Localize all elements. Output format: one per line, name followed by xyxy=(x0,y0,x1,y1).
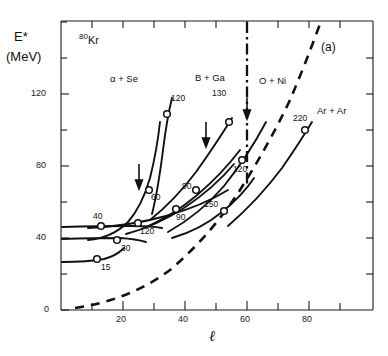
marker-b-ga-130 xyxy=(226,119,233,126)
curve-ar-ar xyxy=(228,122,312,226)
curve-b-ga xyxy=(150,118,232,220)
point-label-150: 150 xyxy=(204,200,218,209)
curve-label-alpha-se: α + Se xyxy=(110,74,138,84)
y-axis-title-line1: E* xyxy=(14,30,28,43)
curve-label-ar-ar: Ar + Ar xyxy=(317,106,346,116)
x-tick-marks-top xyxy=(92,21,340,28)
x-tick-label-20: 20 xyxy=(116,315,126,324)
arrow-left xyxy=(136,164,143,189)
point-label-120: 120 xyxy=(140,227,154,236)
x-tick-marks xyxy=(92,301,340,310)
point-label-alpha-se: 120 xyxy=(171,94,185,103)
curve-label-b-ga: B + Ga xyxy=(195,73,225,83)
x-tick-label-80: 80 xyxy=(302,315,312,324)
curve-30 xyxy=(62,238,146,242)
marker-o-ni-120 xyxy=(239,157,246,164)
y-tick-label-80: 80 xyxy=(36,161,46,170)
y-tick-label-0: 0 xyxy=(44,305,49,314)
mass-number: 80 xyxy=(79,32,88,41)
system-title: 80Kr xyxy=(79,33,99,46)
arrow-center xyxy=(244,98,251,119)
figure-panel-a: E* (MeV) 0 40 80 120 20 40 60 80 ℓ 80Kr … xyxy=(0,0,388,356)
y-tick-marks xyxy=(61,22,69,310)
point-label-15: 15 xyxy=(101,263,110,272)
point-label-ar-ar: 220 xyxy=(293,114,307,123)
curve-60 xyxy=(88,122,160,240)
marker-150 xyxy=(221,208,228,215)
curve-15 xyxy=(62,248,124,262)
curve-label-o-ni: O + Ni xyxy=(259,76,286,86)
y-tick-label-40: 40 xyxy=(36,233,46,242)
point-label-b-ga: 130 xyxy=(212,89,226,98)
marker-alpha-se-120 xyxy=(164,111,171,118)
point-label-40: 40 xyxy=(93,212,102,221)
element-symbol: Kr xyxy=(88,34,99,46)
x-tick-label-40: 40 xyxy=(178,315,188,324)
point-label-90: 90 xyxy=(182,182,191,191)
point-label-30: 30 xyxy=(121,244,130,253)
marker-40 xyxy=(98,223,105,230)
y-tick-marks-right xyxy=(366,58,373,274)
marker-90 xyxy=(193,187,200,194)
y-tick-label-120: 120 xyxy=(31,89,46,98)
marker-15 xyxy=(94,256,101,263)
marker-ar-ar-220 xyxy=(302,127,309,134)
point-label-60: 60 xyxy=(151,193,160,202)
arrow-right xyxy=(203,122,210,147)
y-axis-title-line2: (MeV) xyxy=(6,50,41,63)
x-tick-label-60: 60 xyxy=(240,315,250,324)
marker-30 xyxy=(114,237,121,244)
panel-label: (a) xyxy=(321,41,336,53)
point-label-o-ni: 120 xyxy=(233,165,247,174)
x-axis-title: ℓ xyxy=(209,329,215,344)
point-label-90b: 90 xyxy=(176,213,185,222)
